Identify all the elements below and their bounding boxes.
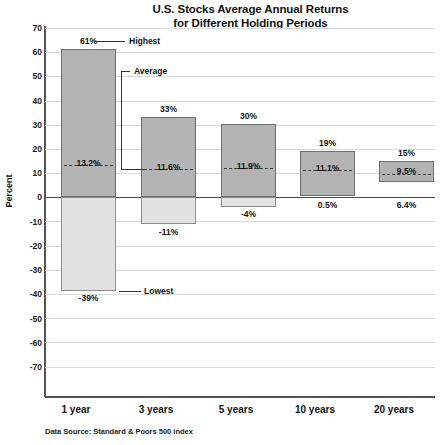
value-label-3-years-average: 11.6% — [131, 162, 206, 172]
y-tick-20: 20 — [2, 145, 42, 154]
annotation-leader-average-bottom — [121, 169, 144, 170]
value-label-10-years-high: 19% — [290, 138, 365, 148]
y-tick-70: 70 — [2, 24, 42, 33]
y-tick-60: 60 — [2, 48, 42, 57]
x-label-5-years: 5 years — [196, 404, 276, 415]
chart-title-line-1: U.S. Stocks Average Annual Returns — [153, 3, 349, 15]
value-label-20-years-high: 15% — [369, 148, 441, 158]
y-tick-neg20: -20 — [2, 242, 42, 251]
annotation-leader-average-vertical — [121, 71, 122, 169]
annotation-leader-average-top — [121, 71, 130, 72]
y-tick-neg70: -70 — [2, 363, 42, 372]
x-label-10-years: 10 years — [275, 404, 355, 415]
y-tick-neg40: -40 — [2, 290, 42, 299]
value-label-3-years-low: -11% — [131, 227, 206, 237]
chart-container: U.S. Stocks Average Annual Returns for D… — [0, 0, 441, 445]
y-tick-10: 10 — [2, 169, 42, 178]
y-axis-tick-labels: 70 60 50 40 30 20 10 0 -10 -20 -30 -40 -… — [0, 28, 42, 397]
y-tick-neg60: -60 — [2, 339, 42, 348]
bar-5-years-negative[interactable] — [221, 197, 276, 207]
value-label-1-year-low: -39% — [51, 293, 126, 303]
y-tick-neg50: -50 — [2, 315, 42, 324]
x-label-1-year: 1 year — [36, 404, 116, 415]
y-tick-30: 30 — [2, 121, 42, 130]
x-label-3-years: 3 years — [116, 404, 196, 415]
chart-title: U.S. Stocks Average Annual Returns for D… — [60, 2, 441, 30]
value-label-20-years-average: 9.5% — [369, 166, 441, 176]
bar-1-year-negative[interactable] — [61, 197, 116, 291]
plot-area: 61% 13.2% -39% 33% 11.6% -11% 30% 11.9% … — [45, 28, 435, 397]
annotation-label-lowest: Lowest — [144, 286, 173, 296]
annotation-leader-lowest — [119, 291, 141, 292]
gridline-70 — [45, 28, 435, 29]
y-tick-neg30: -30 — [2, 266, 42, 275]
x-label-20-years: 20 years — [354, 404, 434, 415]
value-label-5-years-average: 11.9% — [211, 161, 286, 171]
value-label-5-years-low: -4% — [211, 209, 286, 219]
gridline-neg60 — [45, 342, 435, 343]
value-label-1-year-average: 13.2% — [51, 158, 126, 168]
annotation-leader-highest — [95, 41, 125, 42]
value-label-10-years-low: 0.5% — [290, 200, 365, 210]
y-tick-50: 50 — [2, 72, 42, 81]
gridline-neg50 — [45, 318, 435, 319]
bar-3-years-positive[interactable] — [141, 117, 196, 197]
bar-1-year-positive[interactable] — [61, 49, 116, 197]
y-tick-0: 0 — [2, 193, 42, 202]
value-label-3-years-high: 33% — [131, 104, 206, 114]
y-tick-40: 40 — [2, 97, 42, 106]
bar-3-years-negative[interactable] — [141, 197, 196, 224]
y-tick-neg10: -10 — [2, 218, 42, 227]
value-label-20-years-low: 6.4% — [369, 200, 441, 210]
value-label-10-years-average: 11.1% — [290, 163, 365, 173]
gridline-neg70 — [45, 367, 435, 368]
bar-10-years-positive[interactable] — [300, 151, 355, 196]
data-source-footnote: Data Source: Standard & Poors 500 index — [45, 427, 193, 436]
value-label-5-years-high: 30% — [211, 111, 286, 121]
annotation-label-average: Average — [134, 66, 167, 76]
annotation-label-highest: Highest — [129, 36, 160, 46]
